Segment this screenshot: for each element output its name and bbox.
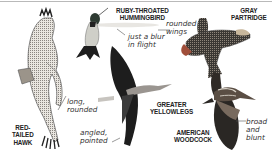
label-ruby-throated-hummingbird: RUBY-THROATED HUMMINGBIRD xyxy=(116,7,169,22)
label-red-tailed-hawk: RED- TAILED HAWK xyxy=(12,124,34,146)
note-greater-yellowlegs: angled, pointed xyxy=(80,129,108,145)
greater-yellowlegs-illustration xyxy=(98,46,172,146)
bird-illustrations xyxy=(0,0,272,159)
note-gray-partridge: rounded wings xyxy=(166,20,196,36)
note-ruby-throated-hummingbird: just a blur in flight xyxy=(128,33,165,49)
label-gray-partridge: GRAY PARTRIDGE xyxy=(231,7,267,22)
note-red-tailed-hawk: long, rounded xyxy=(67,98,97,114)
note-american-woodcock: broad and blunt xyxy=(246,118,267,143)
label-american-woodcock: AMERICAN WOODCOCK xyxy=(174,129,212,144)
label-greater-yellowlegs: GREATER YELLOWLEGS xyxy=(150,101,193,116)
